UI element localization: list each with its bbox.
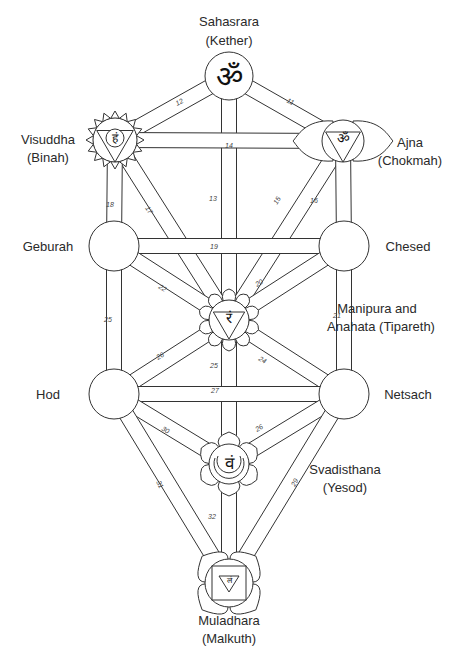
node-chesed	[319, 221, 369, 271]
tree-of-life-diagram: ॐहंॐरंवंलं 12 11 14 13 17 15 18 16 19 22…	[0, 0, 456, 661]
ram-glyph-icon: रं	[226, 309, 233, 327]
label-kether: (Kether)	[206, 33, 253, 48]
node-hod	[89, 369, 139, 419]
path-number-25-center: 25	[209, 362, 218, 369]
path-geburah-chesed	[114, 239, 344, 254]
path-number-32: 32	[208, 513, 216, 520]
label-malkuth: (Malkuth)	[202, 631, 256, 646]
path-number-15: 15	[272, 195, 282, 205]
path-hod-netsach	[114, 387, 344, 402]
node-netsach	[319, 369, 369, 419]
diagram-canvas: ॐहंॐरंवंलं 12 11 14 13 17 15 18 16 19 22…	[0, 0, 456, 661]
label-netsach: Netsach	[384, 387, 432, 402]
path-number-24: 24	[257, 354, 268, 365]
label-chesed: Chesed	[386, 239, 431, 254]
label-ajna: Ajna	[397, 135, 424, 150]
ajna-om-glyph-icon: ॐ	[337, 130, 350, 146]
path-number-28: 26	[253, 423, 264, 434]
label-visuddha: Visuddha	[21, 132, 76, 147]
label-yesod: (Yesod)	[323, 480, 367, 495]
path-number-25-left: 25	[103, 316, 112, 323]
label-manipura: Manipura and	[337, 301, 417, 316]
label-geburah: Geburah	[23, 239, 74, 254]
vam-glyph-icon: वं	[225, 453, 235, 473]
label-tiphareth: Anahata (Tipareth)	[327, 319, 435, 334]
label-binah: (Binah)	[27, 150, 69, 165]
label-svadisthana: Svadisthana	[309, 462, 381, 477]
label-sahasrara: Sahasrara	[199, 14, 260, 29]
label-chokmah: (Chokmah)	[378, 153, 442, 168]
path-number-13: 13	[209, 195, 217, 202]
ham-glyph-icon: हं	[112, 131, 119, 145]
label-hod: Hod	[36, 387, 60, 402]
path-number-18: 18	[106, 201, 114, 208]
om-glyph-icon: ॐ	[216, 59, 243, 94]
path-kether-tiphareth	[222, 76, 237, 320]
path-number-14: 14	[225, 142, 233, 149]
path-number-27: 27	[210, 387, 220, 394]
path-number-16: 16	[310, 197, 318, 204]
path-number-19: 19	[210, 243, 218, 250]
node-geburah	[89, 221, 139, 271]
label-muladhara: Muladhara	[198, 613, 260, 628]
